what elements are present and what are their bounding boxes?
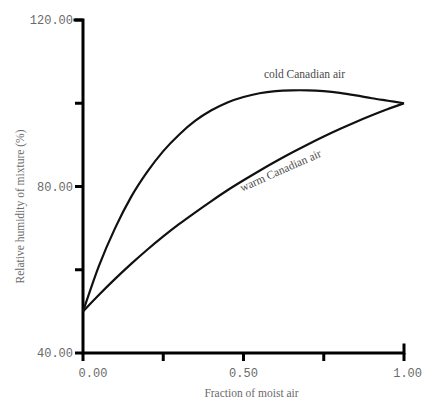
x-axis-title: Fraction of moist air bbox=[204, 387, 298, 399]
y-axis-title: Relative humidity of mixture (%) bbox=[14, 129, 27, 283]
x-tick-label: 0.50 bbox=[229, 367, 258, 381]
curve-cold-canadian-air bbox=[83, 90, 404, 311]
chart: 40.0080.00120.000.000.501.00Fraction of … bbox=[0, 0, 422, 404]
x-tick-label: 0.00 bbox=[79, 367, 108, 381]
curve-warm-canadian-air bbox=[83, 103, 404, 311]
y-tick-label: 120.00 bbox=[30, 14, 73, 28]
curves bbox=[83, 90, 404, 311]
y-tick-label: 40.00 bbox=[37, 347, 73, 361]
label-warm-canadian-air: warm Canadian air bbox=[238, 147, 323, 194]
x-tick-label: 1.00 bbox=[393, 367, 422, 381]
axes bbox=[75, 20, 404, 361]
y-tick-label: 80.00 bbox=[37, 181, 73, 195]
label-cold-canadian-air: cold Canadian air bbox=[264, 68, 345, 80]
line-chart: 40.0080.00120.000.000.501.00Fraction of … bbox=[0, 0, 422, 404]
labels: 40.0080.00120.000.000.501.00Fraction of … bbox=[14, 14, 422, 399]
